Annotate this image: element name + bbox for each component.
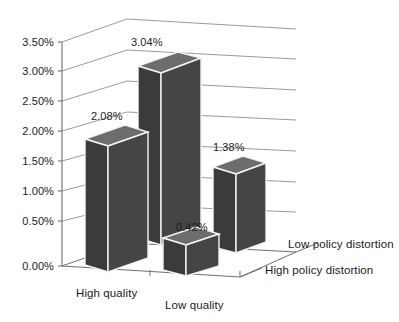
y-tick-label-1.50: 1.50% [2,155,54,167]
bar-side-face [108,132,148,272]
y-tick-label-0.50: 0.50% [2,215,54,227]
gridline-3.50 [62,19,296,42]
category-label-low-quality: Low quality [165,299,224,311]
bar-high-quality-high-distortion[interactable] [85,125,148,272]
bar-value-label-2.08: 2.08% [91,110,123,122]
y-tick-label-1.00: 1.00% [2,185,54,197]
y-tick-label-0.00: 0.00% [2,260,54,272]
bar-side-face [236,163,266,253]
y-tick-label-3.00: 3.00% [2,65,54,77]
y-axis [58,42,62,266]
bar-front-face [163,238,186,276]
y-tick-label-2.50: 2.50% [2,95,54,107]
bar-side-face [161,58,201,245]
y-tick-label-3.50: 3.50% [2,36,54,48]
series-label-low-policy-distortion: Low policy distortion [288,238,394,250]
category-label-high-quality: High quality [76,287,137,299]
bar-front-face [85,139,108,272]
bar-low-quality-low-distortion[interactable] [213,156,266,253]
leader-high-distortion [240,268,262,277]
bar-value-label-0.42: 0.42% [176,221,208,233]
bar-value-label-1.38: 1.38% [213,141,245,153]
series-label-high-policy-distortion: High policy distortion [265,264,373,276]
bar-value-label-3.04: 3.04% [131,36,163,48]
y-tick-label-2.00: 2.00% [2,125,54,137]
chart-container: 3.50% 3.00% 2.50% 2.00% 1.50% 1.00% 0.50… [0,0,399,322]
